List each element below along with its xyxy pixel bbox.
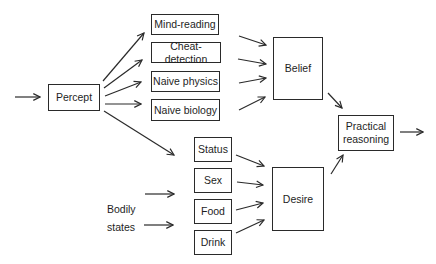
cheat-detection-label: Cheat-detection [152, 40, 220, 66]
cheat-detection-box: Cheat-detection [151, 42, 221, 63]
bodily-states-line2: states [107, 218, 136, 236]
naive-biology-box: Naive biology [151, 99, 220, 121]
drink-box: Drink [194, 230, 232, 255]
naive-biology-label: Naive biology [154, 104, 217, 117]
arrow-naivebiology-belief [239, 97, 265, 110]
mind-reading-label: Mind-reading [154, 18, 215, 31]
status-box: Status [194, 137, 232, 162]
desire-box: Desire [272, 167, 324, 231]
arrow-status-desire [236, 155, 264, 166]
arrow-desire-practical [331, 155, 343, 174]
belief-box: Belief [273, 37, 323, 100]
desire-label: Desire [283, 193, 313, 206]
arrow-drink-desire [236, 220, 264, 233]
sex-label: Sex [204, 174, 222, 187]
practical-reasoning-label: Practical reasoning [339, 120, 393, 146]
practical-reasoning-box: Practical reasoning [338, 115, 394, 151]
bodily-states-line1: Bodily [107, 200, 136, 218]
arrow-belief-practical [328, 93, 342, 108]
sex-box: Sex [194, 168, 232, 193]
naive-physics-label: Naive physics [153, 75, 218, 88]
food-label: Food [201, 205, 225, 218]
arrow-naivephysics-belief [239, 78, 266, 83]
status-label: Status [198, 143, 228, 156]
arrow-sex-desire [237, 182, 263, 185]
arrow-food-desire [236, 203, 263, 210]
bodily-states-label: Bodily states [107, 200, 136, 236]
belief-label: Belief [285, 62, 311, 75]
percept-box: Percept [48, 84, 100, 111]
mind-reading-box: Mind-reading [151, 14, 219, 35]
arrow-percept-naivephysics [105, 82, 141, 96]
arrow-cheatdetection-belief [238, 59, 266, 64]
drink-label: Drink [201, 236, 226, 249]
percept-label: Percept [56, 91, 92, 104]
naive-physics-box: Naive physics [151, 71, 220, 92]
arrow-mindreading-belief [239, 36, 266, 45]
food-box: Food [194, 199, 232, 224]
